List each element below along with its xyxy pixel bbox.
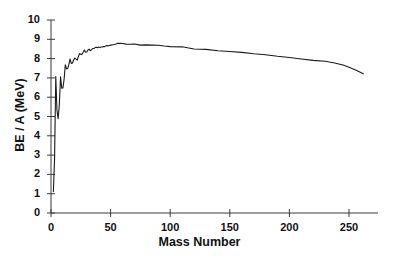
x-axis-title: Mass Number <box>0 235 399 249</box>
x-axis-tick-label: 250 <box>329 221 369 233</box>
y-axis-tick-label: 0 <box>18 206 40 218</box>
binding-energy-chart: 012345678910 050100150200250 Mass Number… <box>0 0 399 260</box>
x-axis-tick-label: 50 <box>91 221 131 233</box>
y-axis-tick-label: 1 <box>18 187 40 199</box>
x-axis-tick-label: 100 <box>150 221 190 233</box>
y-axis-title: BE / A (MeV) <box>13 45 27 185</box>
y-axis-tick-label: 10 <box>18 13 40 25</box>
x-axis-tick-label: 200 <box>269 221 309 233</box>
x-axis-tick-label: 0 <box>31 221 71 233</box>
binding-energy-curve <box>53 43 363 191</box>
data-series-group <box>53 43 363 191</box>
y-axis-tick-label: 9 <box>18 32 40 44</box>
axes <box>51 20 378 213</box>
x-axis-tick-label: 150 <box>210 221 250 233</box>
